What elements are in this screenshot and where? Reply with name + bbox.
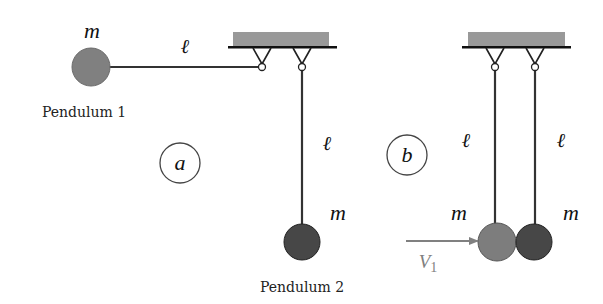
pendulum-1-caption: Pendulum 1 bbox=[42, 104, 126, 120]
pendulum-1-ball bbox=[72, 48, 110, 86]
pendulum-2-hinge bbox=[299, 64, 306, 71]
panel-a-label-text: a bbox=[175, 150, 186, 175]
pendulum-1-hinge bbox=[259, 64, 266, 71]
left-pendulum-length-label: ℓ bbox=[462, 129, 471, 151]
velocity-label: V1 bbox=[419, 251, 438, 275]
support-bar bbox=[228, 46, 337, 49]
left-pendulum-hinge bbox=[492, 64, 499, 71]
support-block bbox=[468, 32, 565, 46]
panel-b-left-pendulum: m ℓ bbox=[451, 64, 516, 262]
right-pendulum-mass-label: m bbox=[563, 200, 579, 225]
pendulum-2-ball bbox=[284, 224, 320, 260]
hinge-bracket-right bbox=[293, 48, 311, 64]
panel-a-label: a bbox=[160, 143, 200, 183]
pendulum-1-length-label: ℓ bbox=[181, 35, 190, 57]
left-pendulum-ball bbox=[478, 223, 516, 261]
hinge-bracket-left bbox=[486, 48, 504, 64]
panel-b-label: b bbox=[387, 135, 427, 175]
two-pendulum-diagram: m ℓ Pendulum 1 m ℓ Pendulum 2 a bbox=[0, 0, 603, 304]
panel-b: m ℓ m ℓ V1 b bbox=[387, 32, 579, 275]
pendulum-2-caption: Pendulum 2 bbox=[260, 279, 344, 295]
velocity-arrow: V1 bbox=[406, 241, 478, 275]
pendulum-2: m ℓ Pendulum 2 bbox=[260, 64, 346, 296]
pendulum-2-mass-label: m bbox=[330, 200, 346, 225]
panel-b-right-pendulum: m ℓ bbox=[516, 64, 579, 261]
pendulum-2-length-label: ℓ bbox=[323, 132, 332, 154]
velocity-subscript: 1 bbox=[430, 260, 437, 275]
ceiling-support-b bbox=[462, 32, 571, 64]
support-block bbox=[233, 32, 329, 46]
pendulum-1-mass-label: m bbox=[84, 18, 100, 43]
right-pendulum-length-label: ℓ bbox=[557, 129, 566, 151]
right-pendulum-hinge bbox=[532, 64, 539, 71]
panel-b-label-text: b bbox=[402, 142, 413, 167]
left-pendulum-mass-label: m bbox=[451, 200, 467, 225]
ceiling-support-a bbox=[228, 32, 337, 64]
hinge-bracket-right bbox=[526, 48, 544, 64]
panel-a: m ℓ Pendulum 1 m ℓ Pendulum 2 a bbox=[42, 18, 346, 295]
hinge-bracket-left bbox=[253, 48, 271, 64]
support-bar bbox=[462, 46, 571, 49]
pendulum-1: m ℓ Pendulum 1 bbox=[42, 18, 266, 120]
right-pendulum-ball bbox=[516, 224, 552, 260]
